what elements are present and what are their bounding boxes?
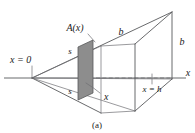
base-edge-top-right [135, 12, 172, 44]
base-edge-top-left [101, 44, 135, 46]
distance-label: x [103, 91, 109, 102]
side-length-bottom-label: s [68, 86, 72, 96]
height-mark-label: x = h [141, 84, 162, 94]
cross-section-square [78, 40, 93, 100]
figure-caption: (a) [92, 120, 102, 130]
base-side-right-label: b [180, 36, 185, 47]
base-side-top-label: b [119, 26, 124, 37]
area-function-label: A(x) [65, 22, 84, 34]
x-axis-label: x [185, 67, 191, 78]
base-edge-bottom-left [101, 111, 135, 113]
figure-container: A(x) x = 0 s s x b b x = h x (a) [0, 0, 195, 133]
pyramid-cross-section-diagram: A(x) x = 0 s s x b b x = h x (a) [0, 0, 195, 133]
side-length-top-label: s [68, 46, 72, 56]
origin-label: x = 0 [9, 54, 31, 65]
